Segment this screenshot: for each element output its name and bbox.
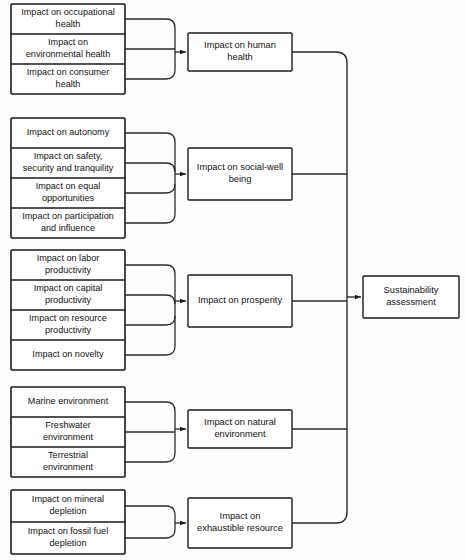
diagram-nodes: Impact on occupationalhealthImpact onenv… (11, 4, 459, 554)
leaf-node-label: Impact on novelty (32, 349, 104, 359)
leaf-connector (125, 163, 175, 172)
diagram-canvas: Impact on occupationalhealthImpact onenv… (0, 0, 465, 560)
leaf-connector (125, 265, 175, 274)
sustainability-assessment-diagram: Impact on occupationalhealthImpact onenv… (0, 0, 465, 560)
leaf-connector (125, 70, 175, 79)
leaf-connector (125, 214, 175, 223)
leaf-connector (125, 506, 175, 515)
leaf-connector (125, 402, 175, 411)
leaf-node-label: Impact on autonomy (27, 127, 110, 137)
leaf-connector (125, 295, 175, 304)
leaf-connector (125, 453, 175, 462)
leaf-node-label: Marine environment (28, 396, 109, 406)
leaf-connector (125, 316, 175, 325)
mid-to-bus-connector (292, 52, 347, 63)
mid-node-label: Impact on prosperity (198, 295, 283, 305)
mid-to-bus-connector (292, 512, 347, 523)
leaf-connector (125, 346, 175, 355)
leaf-connector (125, 184, 175, 193)
leaf-connector (125, 529, 175, 538)
leaf-connector (125, 19, 175, 28)
leaf-connector (125, 133, 175, 142)
